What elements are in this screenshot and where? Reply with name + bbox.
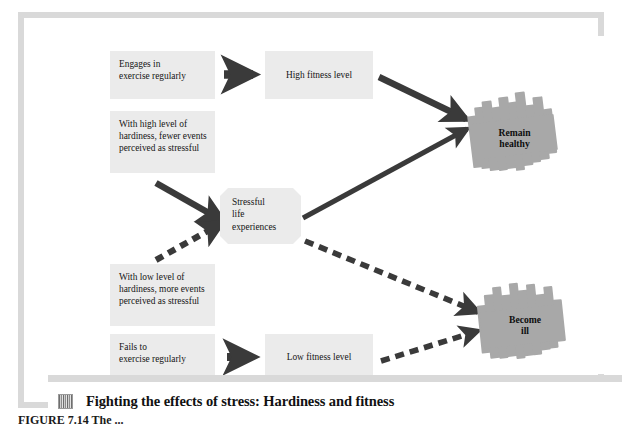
edge-stress-to-becomeill: [305, 241, 478, 312]
node-become-ill: Become ill: [474, 276, 576, 373]
become-ill-scribble-icon: [474, 276, 576, 373]
node-fails-to-exercise-regularly: Fails to exercise regularly: [110, 334, 215, 380]
figure-page: Engages in exercise regularly High fitne…: [0, 0, 622, 425]
edge-stress-to-remainhealthy: [303, 129, 467, 218]
node-with-high-level-of-hardiness: With high level of hardiness, fewer even…: [110, 111, 215, 173]
node-with-low-level-of-hardiness: With low level of hardiness, more events…: [110, 264, 215, 326]
node-engages-in-exercise-regularly: Engages in exercise regularly: [110, 51, 215, 99]
node-high-fitness-level: High fitness level: [265, 51, 373, 99]
figure-caption: Fighting the effects of stress: Hardines…: [86, 393, 394, 410]
edge-lowhardiness-to-stress: [156, 223, 222, 260]
figure-number-line: FIGURE 7.14 The ...: [18, 416, 604, 425]
figure-frame: Engages in exercise regularly High fitne…: [18, 12, 604, 408]
edge-lowfitness-to-becomeill: [381, 331, 478, 361]
edge-highfitness-to-remainhealthy: [379, 77, 466, 119]
edge-highhardiness-to-stress: [156, 183, 223, 221]
caption-bar: Fighting the effects of stress: Hardines…: [48, 382, 622, 420]
remain-healthy-scribble-icon: [462, 89, 567, 186]
caption-separator: [48, 375, 622, 382]
diagram-canvas: Engages in exercise regularly High fitne…: [48, 36, 622, 374]
photo-thumbnail-icon: [58, 394, 73, 409]
node-low-fitness-level: Low fitness level: [265, 334, 373, 380]
node-stressful-life-experiences: Stressful life experiences: [220, 188, 301, 244]
node-remain-healthy: Remain healthy: [462, 89, 567, 186]
figure-number-text: FIGURE 7.14 The ...: [18, 416, 604, 425]
